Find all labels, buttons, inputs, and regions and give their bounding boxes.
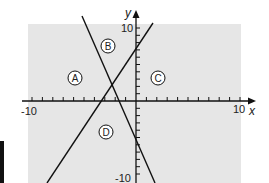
region-d: D — [99, 125, 113, 139]
x-tick-min: -10 — [21, 105, 37, 117]
plot-background — [28, 24, 241, 183]
region-a-label: A — [72, 73, 79, 84]
region-b: B — [101, 39, 115, 53]
x-axis-label: x — [248, 104, 256, 118]
region-c: C — [151, 71, 165, 85]
y-tick-max: 10 — [121, 22, 133, 34]
region-a: A — [68, 71, 82, 85]
region-d-label: D — [102, 127, 109, 138]
y-axis-label: y — [124, 6, 132, 20]
graph: -10 10 x y 10 — [0, 0, 269, 183]
region-c-label: C — [154, 73, 161, 84]
edge-bar — [0, 141, 4, 183]
x-tick-max: 10 — [233, 103, 245, 115]
y-tick-min: -10 — [115, 172, 131, 183]
y-axis-arrow-icon — [133, 10, 140, 18]
region-b-label: B — [105, 41, 112, 52]
